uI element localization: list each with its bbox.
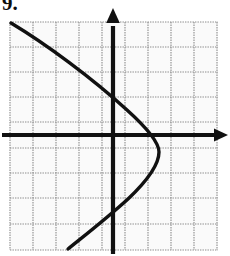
coordinate-plane-graph — [0, 0, 230, 256]
y-axis-arrow-icon — [106, 8, 120, 23]
x-axis-arrow-icon — [214, 129, 228, 142]
graph-figure: 9. — [0, 0, 230, 256]
